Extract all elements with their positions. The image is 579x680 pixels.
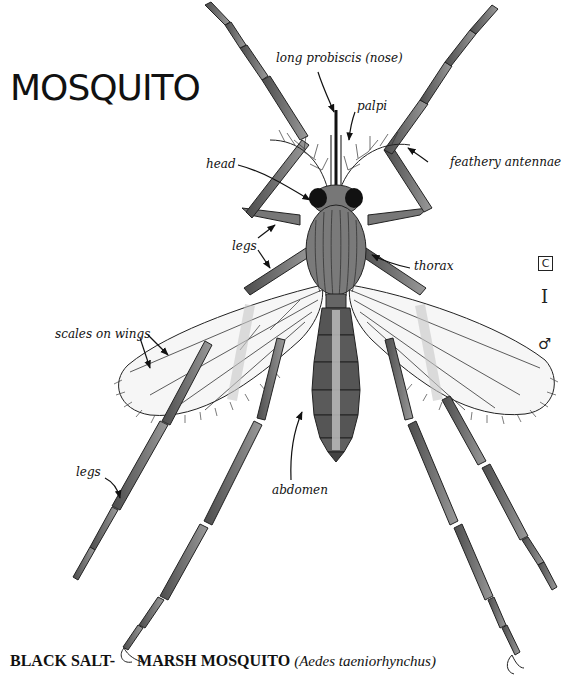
caption: BLACK SALT-MARSH MOSQUITO (Aedes taenior… bbox=[10, 652, 436, 670]
label-head: head bbox=[206, 158, 236, 170]
diagram-title: MOSQUITO bbox=[10, 70, 200, 106]
label-feathery-antennae: feathery antennae bbox=[450, 156, 561, 168]
thorax bbox=[306, 205, 366, 298]
label-abdomen: abdomen bbox=[272, 484, 328, 496]
plate-letter-box: C bbox=[538, 256, 553, 271]
scale-bar-icon: I bbox=[541, 288, 548, 306]
caption-part1: BLACK SALT- bbox=[10, 652, 115, 669]
label-scales-on-wings: scales on wings bbox=[55, 328, 150, 340]
mosquito-diagram: MOSQUITO long probiscis (nose) palpi hea… bbox=[0, 0, 579, 680]
label-legs-lower: legs bbox=[76, 466, 101, 478]
abdomen bbox=[312, 294, 360, 462]
label-palpi: palpi bbox=[357, 100, 387, 112]
label-proboscis: long probiscis (nose) bbox=[276, 52, 403, 64]
label-legs-upper: legs bbox=[232, 240, 257, 252]
male-symbol-icon: ♂ bbox=[538, 337, 551, 352]
caption-part2: MARSH MOSQUITO bbox=[137, 652, 290, 669]
caption-scientific-name: (Aedes taeniorhynchus) bbox=[294, 653, 436, 669]
label-thorax: thorax bbox=[414, 260, 453, 272]
right-foot-hook bbox=[507, 655, 524, 674]
